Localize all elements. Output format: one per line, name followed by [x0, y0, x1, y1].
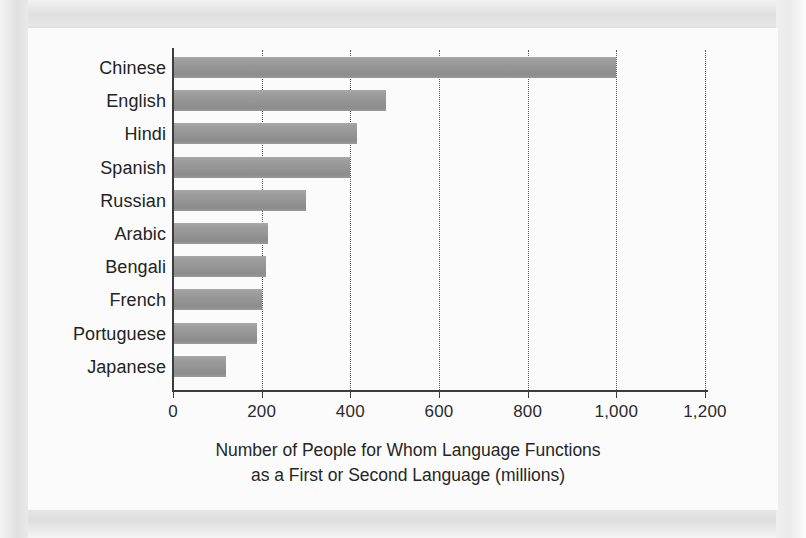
category-label-french: French — [26, 290, 166, 311]
category-label-japanese: Japanese — [26, 357, 166, 378]
category-label-bengali: Bengali — [26, 257, 166, 278]
gridline-600 — [439, 50, 440, 390]
category-label-hindi: Hindi — [26, 124, 166, 145]
bar-arabic — [173, 223, 268, 244]
tick-mark-400 — [350, 390, 351, 398]
bar-spanish — [173, 157, 350, 178]
x-axis-caption-line-2: as a First or Second Language (millions) — [88, 463, 728, 488]
gridline-1200 — [705, 50, 706, 390]
x-tick-label-800: 800 — [483, 402, 573, 422]
x-tick-label-1200: 1,200 — [660, 402, 750, 422]
page-edge-band-left — [0, 0, 28, 538]
tick-mark-200 — [262, 390, 263, 398]
category-label-russian: Russian — [26, 191, 166, 212]
bar-french — [173, 289, 262, 310]
category-label-arabic: Arabic — [26, 224, 166, 245]
x-axis-line — [173, 390, 708, 392]
page-edge-band-top — [0, 0, 806, 26]
gridline-1000 — [616, 50, 617, 390]
bar-hindi — [173, 123, 357, 144]
plot-area — [173, 50, 705, 390]
x-tick-label-400: 400 — [305, 402, 395, 422]
x-tick-label-600: 600 — [394, 402, 484, 422]
bar-portuguese — [173, 323, 257, 344]
category-label-english: English — [26, 91, 166, 112]
gridline-800 — [528, 50, 529, 390]
bar-english — [173, 90, 386, 111]
x-tick-label-1000: 1,000 — [571, 402, 661, 422]
category-label-spanish: Spanish — [26, 158, 166, 179]
chart-canvas: ChineseEnglishHindiSpanishRussianArabicB… — [28, 28, 778, 510]
page-edge-band-bottom — [0, 508, 806, 538]
bar-bengali — [173, 256, 266, 277]
x-tick-label-0: 0 — [128, 402, 218, 422]
page-edge-band-right — [776, 0, 806, 538]
tick-mark-1200 — [705, 390, 706, 398]
category-axis-labels: ChineseEnglishHindiSpanishRussianArabicB… — [28, 50, 166, 390]
category-label-chinese: Chinese — [26, 58, 166, 79]
bar-russian — [173, 190, 306, 211]
y-axis-line — [172, 48, 174, 392]
x-axis-caption-line-1: Number of People for Whom Language Funct… — [88, 438, 728, 463]
tick-mark-1000 — [616, 390, 617, 398]
bar-chinese — [173, 57, 616, 78]
tick-mark-800 — [528, 390, 529, 398]
category-label-portuguese: Portuguese — [26, 324, 166, 345]
bar-japanese — [173, 356, 226, 377]
x-axis-caption: Number of People for Whom Language Funct… — [88, 438, 728, 488]
tick-mark-600 — [439, 390, 440, 398]
x-tick-label-200: 200 — [217, 402, 307, 422]
figure-frame: ChineseEnglishHindiSpanishRussianArabicB… — [0, 0, 806, 538]
tick-mark-0 — [173, 390, 174, 398]
